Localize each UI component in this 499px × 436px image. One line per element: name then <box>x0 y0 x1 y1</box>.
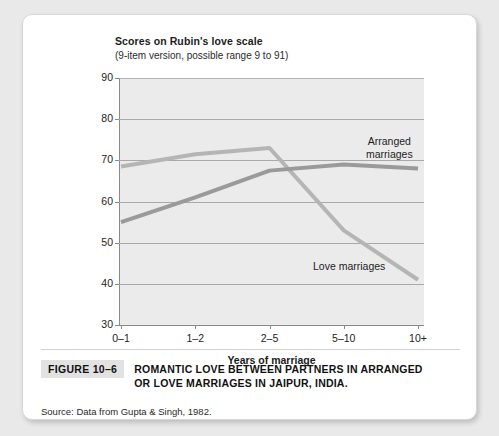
y-axis-tick-label: 70 <box>87 153 113 165</box>
x-axis-tick-label: 1–2 <box>186 332 204 344</box>
plot-wrapper: 30405060708090 0–11–22–55–1010+ Arranged… <box>119 78 424 325</box>
x-axis-tick <box>121 325 122 329</box>
series-annotation-arranged: Arrangedmarriages <box>366 135 413 161</box>
chart-container: Scores on Rubin's love scale (9-item ver… <box>23 15 477 345</box>
x-axis-tick-label: 0–1 <box>112 332 130 344</box>
y-axis-tick-label: 80 <box>87 112 113 124</box>
x-axis-tick <box>344 325 345 329</box>
x-axis-tick <box>195 325 196 329</box>
caption-row: FIGURE 10–6ROMANTIC LOVE BETWEEN PARTNER… <box>41 360 461 390</box>
x-axis-line <box>119 325 424 326</box>
y-axis-tick-label: 50 <box>87 236 113 248</box>
x-axis-tick-label: 5–10 <box>332 332 355 344</box>
x-axis-tick-label: 10+ <box>409 332 427 344</box>
x-axis-tick <box>270 325 271 329</box>
series-annotation-love: Love marriages <box>313 260 385 273</box>
chart-title: Scores on Rubin's love scale <box>115 35 263 47</box>
source-note: Source: Data from Gupta & Singh, 1982. <box>41 406 212 417</box>
caption-divider <box>41 349 460 350</box>
figure-caption: ROMANTIC LOVE BETWEEN PARTNERS IN ARRANG… <box>134 360 434 390</box>
x-axis-tick <box>418 325 419 329</box>
y-axis-tick-label: 40 <box>87 277 113 289</box>
y-axis-tick-label: 60 <box>87 195 113 207</box>
figure-card: Scores on Rubin's love scale (9-item ver… <box>22 14 477 420</box>
page-background: Scores on Rubin's love scale (9-item ver… <box>0 0 499 436</box>
series-lines <box>119 78 424 325</box>
y-axis-tick-label: 30 <box>87 318 113 330</box>
x-axis-tick-label: 2–5 <box>261 332 279 344</box>
y-axis-tick-label: 90 <box>87 71 113 83</box>
chart-subtitle: (9-item version, possible range 9 to 91) <box>115 50 288 61</box>
figure-number-badge: FIGURE 10–6 <box>41 360 124 378</box>
series-line-arranged <box>121 164 418 222</box>
